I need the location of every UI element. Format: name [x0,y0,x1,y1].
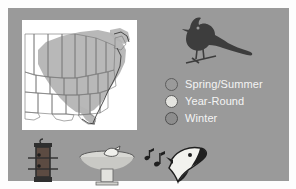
range-map-card [22,20,137,130]
legend-item-year-round[interactable]: Year-Round [165,93,296,109]
legend-label-winter: Winter [185,112,217,124]
singing-bird-head [166,147,206,182]
range-map-infographic: Spring/Summer Year-Round Winter [0,0,296,189]
range-legend: Spring/Summer Year-Round Winter [165,76,296,127]
music-notes-icon [144,148,165,167]
legend-swatch-year-round [165,95,178,108]
legend-swatch-spring-summer [165,78,178,91]
habitat-icon-row [20,134,200,186]
content-panel: Spring/Summer Year-Round Winter [8,8,289,181]
bird-song-icon [142,144,210,186]
bird-legs-and-perch [186,49,216,63]
legend-item-spring-summer[interactable]: Spring/Summer [165,76,296,92]
bird-body-shape [182,18,252,56]
tube-feeder-icon [26,136,60,186]
birdbath-icon [78,140,136,186]
legend-item-winter[interactable]: Winter [165,110,296,126]
cardinal-silhouette-figure [168,14,256,72]
cardinal-silhouette-icon [168,14,256,72]
range-map-graphic [22,20,137,130]
legend-label-spring-summer: Spring/Summer [185,78,263,90]
legend-swatch-winter [165,112,178,125]
legend-label-year-round: Year-Round [185,95,244,107]
